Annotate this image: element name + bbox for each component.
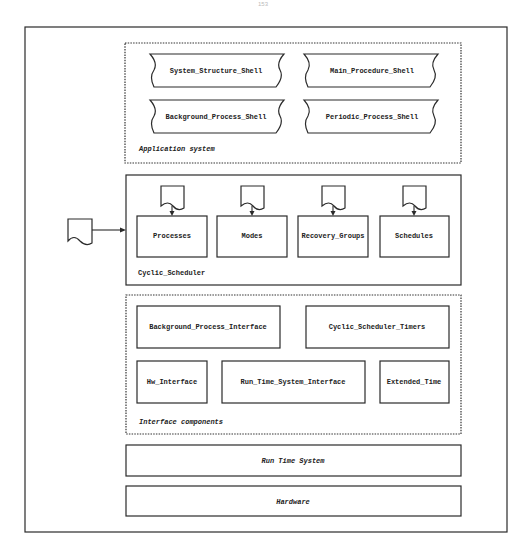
- shell-label: Main_Procedure_Shell: [330, 67, 414, 75]
- ic-hw-interface[interactable]: Hw_Interface: [137, 361, 207, 403]
- component-label: Background_Process_Interface: [149, 323, 267, 331]
- ic-run-time-system-interface[interactable]: Run_Time_System_Interface: [222, 361, 365, 403]
- component-label: Cyclic_Scheduler_Timers: [329, 323, 426, 331]
- component-label: Recovery_Groups: [301, 232, 364, 240]
- shell-system-structure[interactable]: System_Structure_Shell: [150, 54, 284, 87]
- ic-cyclic-scheduler-timers[interactable]: Cyclic_Scheduler_Timers: [306, 306, 449, 348]
- hardware-label: Hardware: [276, 498, 310, 506]
- component-label: Hw_Interface: [147, 378, 197, 386]
- shell-main-procedure[interactable]: Main_Procedure_Shell: [304, 54, 438, 87]
- component-label: Schedules: [395, 232, 433, 240]
- interface-components-label: Interface components: [139, 418, 223, 426]
- component-label: Run_Time_System_Interface: [240, 378, 345, 386]
- ic-background-process-interface[interactable]: Background_Process_Interface: [137, 306, 280, 348]
- cyclic-scheduler-label: Cyclic_Scheduler: [138, 269, 205, 277]
- cyclic-scheduler-group: Processes Modes Recovery_Groups Schedule…: [126, 175, 461, 285]
- component-label: Modes: [241, 232, 262, 240]
- architecture-diagram: 153 System_Structure_Shell Main_Procedur…: [0, 0, 528, 558]
- shell-label: Background_Process_Shell: [166, 113, 267, 121]
- shell-periodic-process[interactable]: Periodic_Process_Shell: [304, 100, 438, 133]
- shell-label: Periodic_Process_Shell: [326, 113, 418, 121]
- application-system-label: Application system: [138, 145, 215, 153]
- hardware-layer[interactable]: Hardware: [126, 486, 461, 516]
- ic-extended-time[interactable]: Extended_Time: [380, 361, 449, 403]
- run-time-system-label: Run Time System: [261, 457, 325, 465]
- shell-label: System_Structure_Shell: [170, 67, 262, 75]
- component-label: Extended_Time: [387, 378, 442, 386]
- run-time-system-layer[interactable]: Run Time System: [126, 445, 461, 476]
- shell-background-process[interactable]: Background_Process_Shell: [150, 100, 284, 133]
- page-number: 153: [258, 1, 269, 7]
- component-label: Processes: [153, 232, 191, 240]
